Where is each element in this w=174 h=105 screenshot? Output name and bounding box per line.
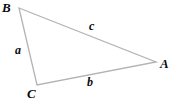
side-label-c: c [89, 20, 94, 32]
vertex-label-b: B [2, 1, 11, 14]
vertex-label-c: C [27, 87, 36, 100]
triangle-figure: B A C a b c [0, 0, 174, 105]
side-label-a: a [15, 44, 21, 56]
triangle-outline [19, 8, 156, 85]
side-label-b: b [87, 76, 93, 88]
vertex-label-a: A [160, 57, 169, 70]
